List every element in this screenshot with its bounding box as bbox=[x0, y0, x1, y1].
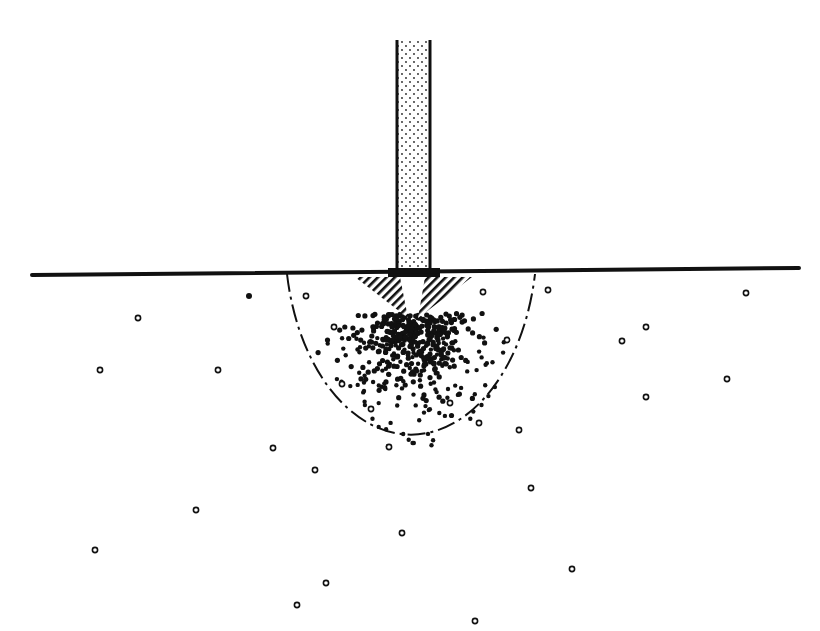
particle bbox=[395, 403, 399, 407]
particle bbox=[376, 349, 381, 354]
particle bbox=[363, 377, 368, 382]
particle bbox=[325, 337, 330, 342]
particle bbox=[348, 384, 352, 388]
open-particle bbox=[97, 367, 102, 372]
particle bbox=[386, 372, 391, 377]
open-particle bbox=[339, 381, 344, 386]
particle bbox=[377, 401, 381, 405]
particle bbox=[398, 334, 403, 339]
open-particle bbox=[472, 618, 477, 623]
particle bbox=[370, 345, 375, 350]
particle bbox=[410, 441, 414, 445]
particle bbox=[409, 361, 414, 366]
open-particle bbox=[331, 324, 336, 329]
particle bbox=[450, 358, 455, 363]
particle bbox=[445, 396, 449, 400]
probe-bar bbox=[397, 40, 430, 272]
particle bbox=[406, 356, 411, 361]
particle bbox=[443, 414, 447, 418]
particle bbox=[479, 355, 483, 359]
open-particle bbox=[92, 547, 97, 552]
particle bbox=[431, 328, 436, 333]
particle bbox=[399, 342, 404, 347]
particle bbox=[411, 379, 416, 384]
particle bbox=[453, 383, 457, 387]
particle bbox=[494, 327, 499, 332]
particle bbox=[463, 358, 468, 363]
particle bbox=[429, 316, 434, 321]
particle bbox=[358, 376, 363, 381]
particle bbox=[444, 361, 449, 366]
particle bbox=[346, 336, 351, 341]
particle bbox=[445, 351, 450, 356]
particle bbox=[377, 388, 382, 393]
particle bbox=[372, 312, 377, 317]
particle bbox=[457, 315, 462, 320]
open-particle bbox=[476, 420, 481, 425]
open-particle bbox=[368, 406, 373, 411]
particle bbox=[395, 364, 400, 369]
particle bbox=[442, 355, 447, 360]
particle bbox=[446, 387, 450, 391]
particle bbox=[392, 328, 397, 333]
particle bbox=[456, 347, 461, 352]
particle bbox=[424, 398, 429, 403]
dense-particle-cloud bbox=[316, 311, 499, 418]
particle bbox=[357, 371, 361, 375]
open-particle bbox=[399, 530, 404, 535]
particle bbox=[431, 438, 435, 442]
particle bbox=[413, 334, 418, 339]
particle bbox=[422, 355, 427, 360]
particle bbox=[471, 316, 476, 321]
particle bbox=[480, 311, 485, 316]
open-particle bbox=[545, 287, 550, 292]
particle bbox=[355, 330, 360, 335]
particle bbox=[437, 361, 442, 366]
particle bbox=[465, 369, 469, 373]
particle bbox=[391, 357, 395, 361]
particle bbox=[466, 326, 471, 331]
particle bbox=[417, 418, 421, 422]
particle bbox=[418, 378, 422, 382]
particle bbox=[358, 338, 363, 343]
particle bbox=[316, 350, 321, 355]
particle bbox=[363, 403, 367, 407]
particle bbox=[452, 364, 457, 369]
particle bbox=[362, 389, 366, 393]
particle bbox=[359, 328, 364, 333]
particle bbox=[468, 417, 472, 421]
open-particle bbox=[724, 376, 729, 381]
particle bbox=[423, 404, 427, 408]
particle bbox=[369, 333, 374, 338]
open-particle bbox=[312, 467, 317, 472]
open-particle bbox=[516, 427, 521, 432]
particle bbox=[413, 322, 418, 327]
influence-zone-boundary bbox=[287, 274, 535, 435]
particle bbox=[446, 330, 451, 335]
particle bbox=[427, 375, 432, 380]
particle bbox=[403, 334, 408, 339]
particle bbox=[454, 330, 459, 335]
filled-particles-outside bbox=[246, 293, 252, 299]
particle bbox=[481, 335, 485, 339]
particle bbox=[459, 386, 463, 390]
particle bbox=[402, 330, 407, 335]
particle bbox=[437, 395, 442, 400]
open-particle bbox=[643, 394, 648, 399]
particle bbox=[379, 324, 384, 329]
particle bbox=[335, 377, 339, 381]
particle bbox=[362, 313, 367, 318]
particle bbox=[413, 366, 418, 371]
particle bbox=[440, 399, 445, 404]
particle bbox=[432, 355, 437, 360]
particle bbox=[406, 323, 411, 328]
particle bbox=[400, 317, 405, 322]
particle bbox=[437, 411, 441, 415]
open-particle bbox=[303, 293, 308, 298]
particle bbox=[459, 355, 464, 360]
open-particle bbox=[386, 444, 391, 449]
open-particle bbox=[619, 338, 624, 343]
particle bbox=[426, 432, 430, 436]
particle bbox=[382, 385, 387, 390]
particle bbox=[371, 380, 375, 384]
